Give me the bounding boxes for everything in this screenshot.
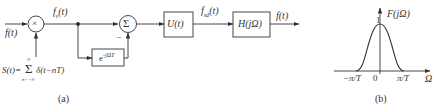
sampling-sum-lower: n=−∞ (22, 77, 35, 82)
origin-label: 0 (373, 74, 378, 83)
right-tick-label: π/T (397, 74, 409, 83)
sampling-function-lhs: S(t)= (2, 66, 21, 75)
h-block-label: H(jΩ) (238, 19, 262, 29)
input-label: f(t) (5, 28, 17, 38)
sampled-signal-label: fs(t) (53, 7, 68, 19)
delay-feedback-line (124, 33, 128, 58)
caption-b: (b) (375, 93, 387, 104)
sampling-function-body: δ(t−nT) (36, 66, 64, 75)
caption-a: (a) (58, 93, 69, 104)
output-label: f(t) (276, 11, 288, 21)
delay-block-text: e-jΩT (99, 52, 115, 63)
summer-symbol: Σ (123, 18, 129, 29)
y-axis-label: F(jΩ) (387, 9, 410, 19)
left-tick-label: −π/T (343, 74, 361, 83)
peak-label: 1 (376, 16, 381, 25)
sampling-sum-upper: ∞ (27, 57, 31, 62)
delay-branch-line (78, 24, 90, 58)
u-block-label: U(t) (167, 19, 184, 29)
sampling-sum-symbol: Σ (25, 62, 33, 75)
u-output-label: fsd(t) (201, 6, 219, 18)
x-axis-label: Ω (425, 74, 432, 84)
multiplier-symbol: × (32, 19, 37, 28)
summer-minus-sign: – (117, 33, 121, 41)
